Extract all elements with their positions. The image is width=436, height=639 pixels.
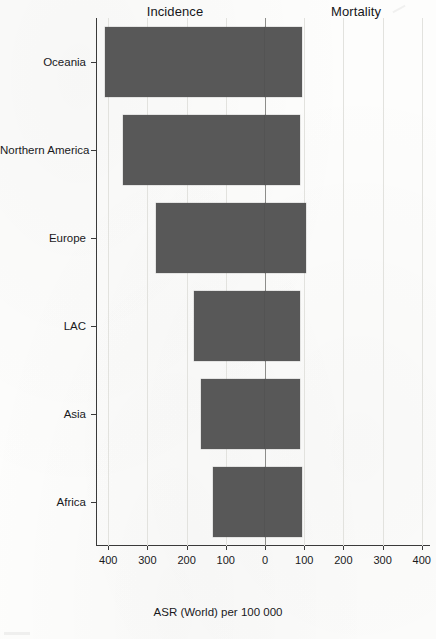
x-axis-tick-label: 0 [262,554,268,566]
y-axis-label-asia: Asia [0,408,86,420]
panel-header-mortality: Mortality [290,4,422,19]
x-axis-tick [422,546,423,550]
x-axis-line [96,545,430,546]
x-axis-tick-label: 300 [138,554,156,566]
bar-mortality-northern-america [265,115,300,185]
y-axis-label-northern-america: Northern America [0,144,86,156]
y-axis-tick [91,150,96,151]
bar-mortality-lac [265,291,300,361]
x-axis-tick-label: 400 [413,554,431,566]
x-axis-tick [265,546,266,550]
bar-row [96,203,430,273]
y-axis-tick [91,62,96,63]
y-axis-tick [91,238,96,239]
x-axis-tick-label: 300 [373,554,391,566]
plot-area: OceaniaNorthern AmericaEuropeLACAsiaAfri… [96,18,430,546]
y-axis-label-africa: Africa [0,496,86,508]
x-axis-tick [147,546,148,550]
bar-incidence-europe [156,203,265,273]
bar-row [96,467,430,537]
bar-incidence-oceania [105,27,265,97]
bar-mortality-asia [265,379,300,449]
bar-incidence-northern-america [123,115,265,185]
y-axis-label-lac: LAC [0,320,86,332]
x-axis-tick [108,546,109,550]
bar-incidence-africa [213,467,265,537]
x-axis-tick [304,546,305,550]
x-axis-title: ASR (World) per 100 000 [0,606,436,618]
x-axis-tick-label: 100 [217,554,235,566]
x-axis-tick-label: 200 [334,554,352,566]
y-axis-label-oceania: Oceania [0,56,86,68]
y-axis-tick [91,414,96,415]
bar-incidence-asia [201,379,265,449]
scan-artifact-bottom-left [4,632,30,635]
x-axis-tick [226,546,227,550]
bar-mortality-oceania [265,27,302,97]
bar-mortality-europe [265,203,306,273]
x-axis-tick-label: 200 [177,554,195,566]
x-axis-tick [187,546,188,550]
chart-figure: Incidence Mortality OceaniaNorthern Amer… [0,0,436,639]
bar-row [96,291,430,361]
bar-mortality-africa [265,467,302,537]
bar-row [96,379,430,449]
bar-row [96,115,430,185]
y-axis-label-europe: Europe [0,232,86,244]
x-axis-tick [383,546,384,550]
x-axis-tick-label: 100 [295,554,313,566]
y-axis-tick [91,326,96,327]
x-axis-tick [343,546,344,550]
bar-row [96,27,430,97]
bar-incidence-lac [194,291,265,361]
x-axis-tick-label: 400 [99,554,117,566]
y-axis-tick [91,502,96,503]
